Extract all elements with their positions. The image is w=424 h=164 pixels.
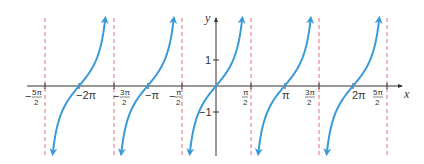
svg-text:2: 2 <box>122 98 127 107</box>
x-tick-3pi-2: 3π 2 <box>305 88 315 107</box>
y-tick-neg-1: −1 <box>199 106 212 118</box>
svg-text:π: π <box>243 88 249 97</box>
svg-text:5π: 5π <box>32 88 42 97</box>
x-tick-neg-3pi-2: − 3π 2 <box>113 88 130 107</box>
svg-text:3π: 3π <box>305 88 315 97</box>
svg-text:2: 2 <box>176 98 181 107</box>
x-tick-neg-pi-2: − π 2 <box>169 88 182 107</box>
svg-text:2: 2 <box>375 98 380 107</box>
y-axis-label: y <box>204 11 211 25</box>
x-tick-pi: π <box>282 89 290 101</box>
y-tick-1: 1 <box>205 54 211 66</box>
x-tick-neg-pi: −π <box>145 89 159 101</box>
svg-text:π: π <box>176 88 182 97</box>
tangent-graph: y x 1 −1 −2π −π π 2π − 5π 2 − 3π 2 − π 2… <box>0 0 424 164</box>
x-tick-pi-2: π 2 <box>242 88 249 107</box>
x-tick-neg-2pi: −2π <box>76 89 97 101</box>
svg-text:−: − <box>169 90 175 102</box>
svg-text:3π: 3π <box>120 88 130 97</box>
svg-text:2: 2 <box>34 98 39 107</box>
x-axis-label: x <box>403 87 410 101</box>
svg-text:2: 2 <box>243 98 248 107</box>
x-tick-5pi-2: 5π 2 <box>373 88 383 107</box>
x-tick-neg-5pi-2: − 5π 2 <box>25 88 42 107</box>
svg-text:5π: 5π <box>373 88 383 97</box>
svg-text:2: 2 <box>307 98 312 107</box>
x-tick-2pi: 2π <box>352 89 366 101</box>
svg-text:−: − <box>113 90 119 102</box>
svg-text:−: − <box>25 90 31 102</box>
